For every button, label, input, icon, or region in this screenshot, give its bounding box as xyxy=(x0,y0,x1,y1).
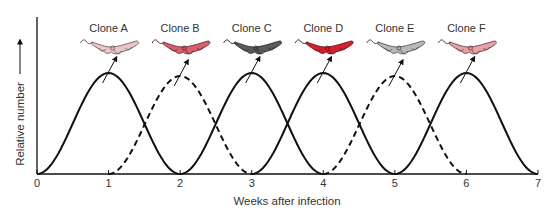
curves xyxy=(37,57,538,174)
clone-icons: Clone AClone BClone CClone DClone EClone… xyxy=(81,22,497,54)
trypanosome-icon xyxy=(438,40,496,54)
curve-clone-f xyxy=(395,73,538,174)
clone-label: Clone E xyxy=(375,22,414,34)
x-tick-label: 1 xyxy=(106,177,112,189)
y-axis-title: Relative number xyxy=(14,82,26,166)
trypanosome-icon xyxy=(224,40,282,54)
trypanosome-icon xyxy=(81,40,139,54)
x-tick-label: 0 xyxy=(34,177,40,189)
x-tick-label: 5 xyxy=(392,177,398,189)
trypanosome-icon xyxy=(367,40,425,54)
curve-clone-a xyxy=(37,73,180,174)
curve-clone-e xyxy=(323,76,466,174)
curve-clone-d xyxy=(252,73,395,174)
x-tick-label: 4 xyxy=(320,177,326,189)
trypanosome-icon xyxy=(152,40,210,54)
clone-label: Clone D xyxy=(303,22,343,34)
pointer-arrow-icon xyxy=(174,60,188,86)
x-tick-label: 6 xyxy=(463,177,469,189)
trypanosome-icon xyxy=(295,40,353,54)
pointer-arrow-icon xyxy=(389,60,403,86)
x-tick-label: 2 xyxy=(177,177,183,189)
pointer-arrow-icon xyxy=(246,57,260,83)
x-tick-label: 7 xyxy=(535,177,541,189)
axes: 01234567 xyxy=(34,17,541,189)
pointer-arrow-icon xyxy=(460,57,474,83)
x-tick-label: 3 xyxy=(249,177,255,189)
clone-label: Clone F xyxy=(447,22,486,34)
curve-clone-c xyxy=(180,73,323,174)
clone-label: Clone B xyxy=(161,22,200,34)
clone-label: Clone A xyxy=(89,22,128,34)
clone-label: Clone C xyxy=(232,22,272,34)
pointer-arrow-icon xyxy=(317,57,331,83)
x-axis-title: Weeks after infection xyxy=(233,195,340,207)
y-axis-title-group: Relative number xyxy=(14,40,26,166)
antigenic-variation-chart: 01234567 Relative number Weeks after inf… xyxy=(0,0,559,216)
pointer-arrow-icon xyxy=(103,57,117,83)
curve-clone-b xyxy=(109,76,252,174)
